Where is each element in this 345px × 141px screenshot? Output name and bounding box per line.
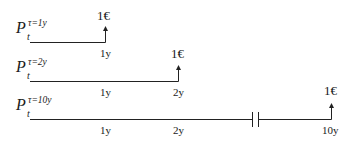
time-subscript: t [27, 68, 30, 84]
bond-price-10y: P τ=10y t [16, 97, 26, 113]
arrowhead-icon [329, 103, 334, 108]
maturity-superscript: τ=10y [28, 92, 52, 108]
price-symbol: P [16, 19, 26, 36]
payoff-label: 1€ [324, 84, 337, 97]
arrowhead-icon [176, 65, 181, 70]
bond-price-1y: P τ=1y t [16, 20, 26, 36]
payoff-label: 1€ [97, 9, 110, 22]
timeline-diagram [0, 0, 345, 141]
arrowhead-icon [103, 26, 108, 31]
time-subscript: t [27, 29, 30, 45]
price-symbol: P [16, 58, 26, 75]
payoff-label: 1€ [171, 47, 184, 60]
tick-label-2y: 2y [173, 87, 184, 98]
price-symbol: P [16, 96, 26, 113]
bond-price-2y: P τ=2y t [16, 59, 26, 75]
tick-label-10y: 10y [322, 125, 339, 136]
maturity-superscript: τ=1y [28, 15, 47, 31]
tick-label-2y: 2y [173, 125, 184, 136]
tick-label-1y: 1y [100, 125, 111, 136]
time-subscript: t [27, 106, 30, 122]
tick-label-1y: 1y [100, 48, 111, 59]
maturity-superscript: τ=2y [28, 54, 47, 70]
tick-label-1y: 1y [100, 87, 111, 98]
